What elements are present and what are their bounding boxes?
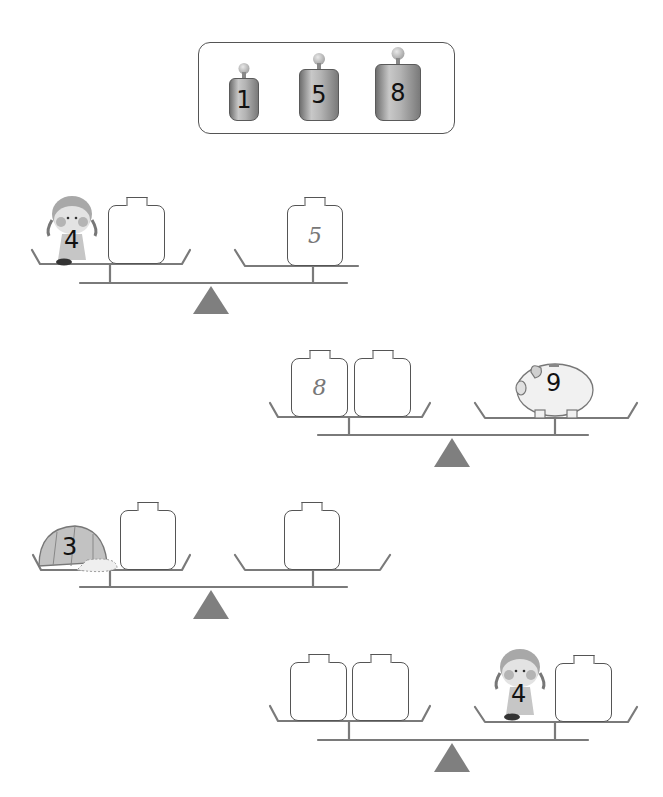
box-value: 8 bbox=[313, 375, 327, 400]
fulcrum-1-icon bbox=[193, 286, 229, 314]
fulcrum-3-icon bbox=[193, 590, 229, 619]
box-handle bbox=[370, 654, 391, 663]
box-handle bbox=[126, 197, 147, 206]
box-handle bbox=[302, 502, 323, 511]
box-handle bbox=[309, 350, 330, 359]
answer-box[interactable] bbox=[108, 205, 165, 264]
fulcrum-4-icon bbox=[434, 743, 470, 772]
piggy-value-label: 9 bbox=[546, 369, 561, 397]
answer-box[interactable] bbox=[284, 510, 340, 570]
box-handle bbox=[372, 350, 393, 359]
box-handle bbox=[305, 197, 326, 206]
box-value: 5 bbox=[308, 223, 322, 248]
fulcrum-2-icon bbox=[434, 438, 470, 467]
box-handle bbox=[138, 502, 159, 511]
girl-value-label: 4 bbox=[64, 226, 79, 254]
cap-value-label: 3 bbox=[62, 533, 77, 561]
answer-box[interactable] bbox=[354, 358, 411, 417]
box-handle bbox=[308, 654, 329, 663]
cap-icon bbox=[39, 526, 117, 572]
girl-value-label: 4 bbox=[511, 680, 526, 708]
answer-box[interactable] bbox=[290, 662, 347, 721]
weight-box: 5 bbox=[287, 205, 343, 266]
answer-box[interactable] bbox=[555, 663, 612, 722]
answer-box[interactable] bbox=[120, 510, 176, 570]
weight-box: 8 bbox=[291, 358, 348, 417]
answer-box[interactable] bbox=[352, 662, 409, 721]
box-handle bbox=[573, 655, 594, 664]
